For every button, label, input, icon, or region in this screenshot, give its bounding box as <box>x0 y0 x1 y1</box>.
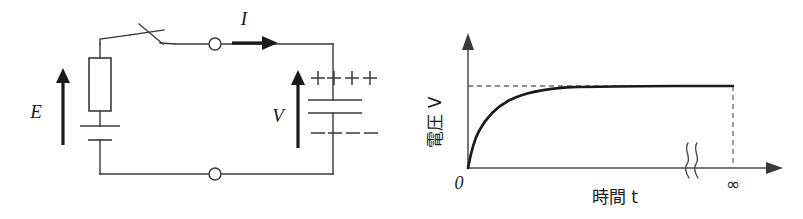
charging-curve <box>468 86 733 168</box>
y-axis-arrowhead <box>462 33 474 50</box>
x-axis-arrowhead <box>766 162 783 174</box>
terminal-top <box>209 38 221 50</box>
figure-svg: I E <box>0 0 803 219</box>
wire-top-left <box>100 35 130 44</box>
voltage-arrow <box>291 70 305 148</box>
emf-label: E <box>29 101 42 122</box>
origin-label: 0 <box>455 173 464 193</box>
x-end-label: ∞ <box>726 174 740 194</box>
emf-arrow <box>56 68 70 145</box>
plus-sign <box>363 71 377 85</box>
circuit-diagram: I E <box>29 8 378 180</box>
plus-sign <box>327 71 341 85</box>
current-arrow-head <box>262 36 278 50</box>
current-arrow <box>232 36 278 50</box>
figure-root: I E <box>0 0 803 219</box>
plus-sign <box>345 71 359 85</box>
switch-contact <box>160 43 175 44</box>
voltage-arrow-head <box>291 70 305 85</box>
capacitor-plus-signs <box>311 71 377 85</box>
current-label: I <box>240 8 249 29</box>
axis-break-mark <box>686 143 698 178</box>
resistor-body <box>89 58 111 111</box>
emf-arrow-head <box>56 68 70 83</box>
terminal-bottom <box>209 168 221 180</box>
plus-sign <box>311 71 325 85</box>
voltage-label: V <box>272 105 286 126</box>
voltage-time-graph: 0 ∞ 時間 t 電圧 V <box>425 33 783 207</box>
switch-cross-stroke <box>139 24 163 44</box>
x-axis-label: 時間 t <box>592 187 638 207</box>
y-axis-label: 電圧 V <box>425 96 445 147</box>
